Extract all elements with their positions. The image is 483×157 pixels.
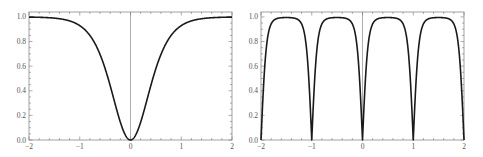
y-tick-label: 0.4 [17, 86, 27, 95]
x-tick-label: −1 [308, 142, 316, 151]
y-tick-label: 0.2 [17, 111, 27, 120]
x-tick-label: 2 [230, 142, 234, 151]
y-tick-label: 0.0 [249, 136, 259, 145]
x-tick-label: −1 [76, 142, 84, 151]
y-tick-label: 0.8 [17, 37, 27, 46]
x-tick-label: 2 [462, 142, 466, 151]
y-tick-label: 1.0 [17, 12, 27, 21]
y-tick-label: 0.4 [249, 86, 259, 95]
x-tick-label: −2 [25, 142, 33, 151]
x-tick-label: 0 [129, 142, 133, 151]
x-tick-label: 1 [411, 142, 415, 151]
y-tick-label: 0.0 [17, 136, 27, 145]
x-tick-label: 0 [361, 142, 365, 151]
y-tick-label: 1.0 [249, 12, 259, 21]
x-tick-label: −2 [257, 142, 265, 151]
y-tick-label: 0.2 [249, 111, 259, 120]
y-tick-label: 0.6 [249, 62, 259, 71]
chart-svg: −2−10120.00.20.40.60.81.0 [242, 0, 483, 157]
x-tick-label: 1 [179, 142, 183, 151]
right-plot: −2−10120.00.20.40.60.81.0 [242, 0, 483, 157]
chart-svg: −2−10120.00.20.40.60.81.0 [0, 0, 241, 157]
y-tick-label: 0.6 [17, 62, 27, 71]
y-tick-label: 0.8 [249, 37, 259, 46]
left-plot: −2−10120.00.20.40.60.81.0 [0, 0, 241, 157]
